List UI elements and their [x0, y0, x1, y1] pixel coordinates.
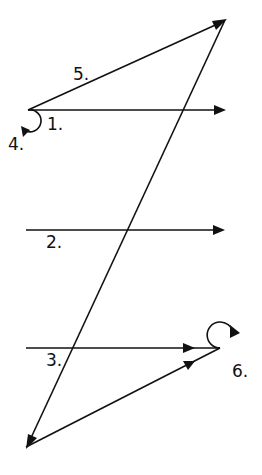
- arrow-diagram: 5. 1. 4. 2. 3. 6.: [0, 0, 262, 475]
- label-2: 2.: [46, 232, 62, 252]
- segment-6-loop: [207, 322, 233, 348]
- segment-6-arrowhead: [230, 325, 240, 338]
- label-3: 3.: [46, 350, 62, 370]
- label-5: 5.: [73, 64, 89, 84]
- label-6: 6.: [232, 361, 248, 381]
- label-4: 4.: [8, 134, 24, 154]
- segment-5-line: [28, 22, 222, 110]
- segment-3-arrowhead: [183, 343, 195, 353]
- segment-2-arrowhead: [213, 225, 225, 235]
- segment-1-arrowhead: [214, 105, 226, 115]
- label-1: 1.: [47, 114, 63, 134]
